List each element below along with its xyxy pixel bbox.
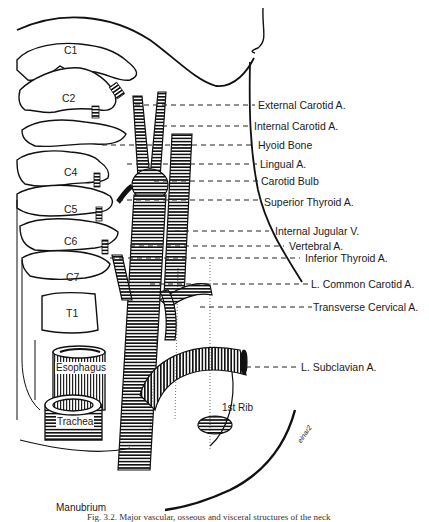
figure-caption: Fig. 3.2. Major vascular, osseous and vi… xyxy=(87,512,331,522)
vertebra-label-c2: C2 xyxy=(62,92,75,104)
label-vertebral-artery: Vertebral A. xyxy=(289,240,343,252)
trachea-label: Trachea xyxy=(56,416,94,428)
vertebra-label-c5: C5 xyxy=(64,203,77,215)
internal-carotid xyxy=(133,96,150,178)
first-rib-label: 1st Rib xyxy=(222,402,253,414)
label-internal-jugular: Internal Jugular V. xyxy=(275,225,359,237)
common-carotid xyxy=(118,195,166,470)
label-lingual-artery: Lingual A. xyxy=(260,158,306,170)
label-internal-carotid: Internal Carotid A. xyxy=(254,120,338,132)
label-inferior-thyroid: Inferior Thyroid A. xyxy=(305,252,388,264)
label-carotid-bulb: Carotid Bulb xyxy=(261,175,319,187)
vertebra-label-c1: C1 xyxy=(64,44,77,56)
vertebra-label-t1: T1 xyxy=(66,307,78,319)
label-external-carotid: External Carotid A. xyxy=(258,99,346,111)
label-transverse-cervical: Transverse Cervical A. xyxy=(313,301,418,313)
esophagus-label: Esophagus xyxy=(55,362,107,374)
label-hyoid-bone: Hyoid Bone xyxy=(258,139,312,151)
vertebra-label-c6: C6 xyxy=(64,235,77,247)
label-left-subclavian: L. Subclavian A. xyxy=(301,361,376,373)
vertebra-label-c4: C4 xyxy=(64,166,77,178)
cut-vessel xyxy=(198,416,232,434)
vertebra-label-c7: C7 xyxy=(66,271,79,283)
label-left-common-carotid: L. Common Carotid A. xyxy=(311,278,414,290)
label-superior-thyroid: Superior Thyroid A. xyxy=(264,196,354,208)
vertebra-c3 xyxy=(22,120,126,146)
